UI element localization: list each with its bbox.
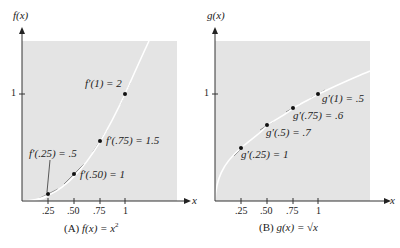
panel-a-caption-expr: f(x) = x (82, 222, 115, 234)
panel-b-label-g05: g′(.5) = .7 (266, 126, 311, 138)
panel-a-label-f050: f′(.50) = 1 (80, 168, 125, 180)
panel-b-xtick-2: .75 (286, 205, 299, 216)
panel-a-label-f1: f′(1) = 2 (85, 77, 122, 89)
panel-b-label-g025: g′(.25) = 1 (241, 148, 288, 160)
panel-a-x-label: x (192, 194, 197, 206)
panel-a-xtick-2: .75 (93, 205, 106, 216)
panel-b-caption-expr: g(x) = √x (276, 221, 318, 233)
panel-a-label-f075: f′(.75) = 1.5 (106, 134, 159, 146)
panel-b-xtick-1: .50 (260, 205, 273, 216)
panel-b-label-g075: g′(.75) = .6 (293, 109, 343, 121)
panel-a-xtick-3: 1 (123, 205, 128, 216)
panel-a-xtick-0: .25 (42, 205, 55, 216)
panel-b-label-g1: g′(1) = .5 (322, 92, 364, 104)
panel-a-label-f025: f′(.25) = .5 (29, 147, 77, 159)
panel-a-caption-sup: 2 (115, 221, 119, 229)
panel-b-ytick-1: 1 (204, 87, 209, 98)
panel-a-caption-prefix: (A) (64, 222, 79, 234)
panel-a-ytick-1: 1 (11, 87, 16, 98)
panel-b-caption-prefix: (B) (259, 221, 274, 233)
panel-b-xtick-3: 1 (316, 205, 321, 216)
panel-b-y-label: g(x) (207, 9, 225, 21)
panel-a-caption: (A) f(x) = x2 (64, 221, 119, 234)
panel-b-xtick-0: .25 (235, 205, 248, 216)
panel-b-caption: (B) g(x) = √x (259, 221, 318, 233)
panel-b-x-label: x (390, 194, 395, 206)
panel-a-xtick-1: .50 (67, 205, 80, 216)
panel-a-y-label: f(x) (13, 9, 28, 21)
